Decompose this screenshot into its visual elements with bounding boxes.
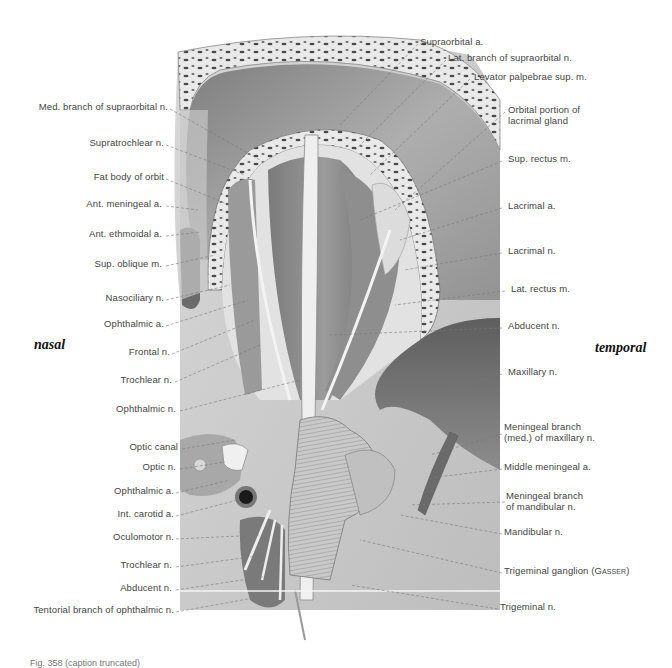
label-med-branch-supraorbital-n: Med. branch of supraorbital n. <box>39 101 168 112</box>
label-line-2: lacrimal gland <box>508 115 580 126</box>
label-ophthalmic-n: Ophthalmic n. <box>116 403 176 414</box>
label-optic-canal: Optic canal <box>129 441 178 452</box>
label-supraorbital-a: Supraorbital a. <box>420 36 483 47</box>
label-lacrimal-a: Lacrimal a. <box>508 200 556 211</box>
label-middle-meningeal-a: Middle meningeal a. <box>504 461 591 472</box>
label-text: Trigeminal ganglion <box>504 565 588 576</box>
label-ophthalmic-a-lower: Ophthalmic a. <box>114 485 174 496</box>
label-line-1: Meningeal branch <box>506 490 583 501</box>
label-trigeminal-n: Trigeminal n. <box>500 601 556 612</box>
label-trochlear-n-lower: Trochlear n. <box>120 559 172 570</box>
label-lacrimal-n: Lacrimal n. <box>508 245 556 256</box>
label-abducent-n-upper: Abducent n. <box>508 320 560 331</box>
figure-caption: Fig. 358 (caption truncated) <box>30 658 140 668</box>
label-ant-ethmoidal-a: Ant. ethmoidal a. <box>89 228 162 239</box>
label-levator-palpebrae-sup-m: Levator palpebrae sup. m. <box>474 71 587 82</box>
label-int-carotid-a: Int. carotid a. <box>118 508 174 519</box>
orientation-nasal: nasal <box>34 337 65 353</box>
label-mandibular-n: Mandibular n. <box>504 526 563 537</box>
label-maxillary-n: Maxillary n. <box>508 366 557 377</box>
label-oculomotor-n: Oculomotor n. <box>113 531 174 542</box>
label-line-1: Meningeal branch <box>504 421 595 432</box>
label-supratrochlear-n: Supratrochlear n. <box>89 137 164 148</box>
label-optic-n: Optic n. <box>142 461 176 472</box>
label-eponym: (Gasser) <box>591 565 629 576</box>
label-lat-rectus-m: Lat. rectus m. <box>511 283 570 294</box>
label-ophthalmic-a-upper: Ophthalmic a. <box>104 318 164 329</box>
label-sup-oblique-m: Sup. oblique m. <box>94 258 162 269</box>
label-line-2: (med.) of maxillary n. <box>504 432 595 443</box>
label-line-2: of mandibular n. <box>506 501 583 512</box>
label-tentorial-branch-ophthalmic-n: Tentorial branch of ophthalmic n. <box>33 604 174 615</box>
label-meningeal-branch-maxillary-n: Meningeal branch (med.) of maxillary n. <box>504 421 595 443</box>
label-abducent-n-lower: Abducent n. <box>120 582 172 593</box>
label-meningeal-branch-mandibular-n: Meningeal branch of mandibular n. <box>506 490 583 512</box>
label-ant-meningeal-a: Ant. meningeal a. <box>86 198 162 209</box>
label-line-1: Orbital portion of <box>508 104 580 115</box>
orientation-temporal: temporal <box>595 340 646 356</box>
label-trigeminal-ganglion: Trigeminal ganglion (Gasser) <box>504 565 629 576</box>
label-sup-rectus-m: Sup. rectus m. <box>508 153 571 164</box>
label-lat-branch-supraorbital-n: Lat. branch of supraorbital n. <box>448 52 572 63</box>
label-trochlear-n-upper: Trochlear n. <box>120 374 172 385</box>
label-nasociliary-n: Nasociliary n. <box>106 292 164 303</box>
label-orbital-portion-lacrimal-gland: Orbital portion of lacrimal gland <box>508 104 580 126</box>
label-frontal-n: Frontal n. <box>129 346 170 357</box>
label-fat-body-of-orbit: Fat body of orbit <box>94 171 164 182</box>
